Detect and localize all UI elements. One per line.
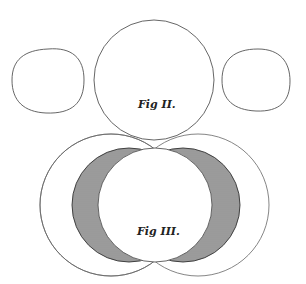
fig-3-center-circle [98, 148, 212, 262]
engraving-plate [0, 0, 306, 284]
fig-2-left-oval [12, 49, 84, 113]
fig-3-diagram [40, 134, 269, 276]
fig-2-diagram [12, 20, 290, 140]
fig-2-right-oval [222, 49, 290, 111]
fig-3-label: Fig III. [137, 225, 180, 238]
fig-2-center-circle [94, 20, 214, 140]
fig-2-label: Fig II. [138, 98, 176, 111]
